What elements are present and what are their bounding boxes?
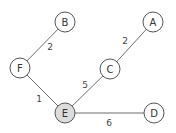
node-f-label: F — [17, 63, 23, 74]
node-c-label: C — [107, 64, 114, 75]
node-f: F — [10, 58, 30, 78]
edge-weight-a-c: 2 — [122, 36, 128, 46]
edge-labels: 2 2 5 1 6 — [36, 36, 128, 128]
node-c: C — [100, 59, 120, 79]
node-a-label: A — [150, 17, 157, 28]
edge-weight-f-e: 1 — [36, 94, 42, 104]
node-b-label: B — [62, 17, 69, 28]
node-d-label: D — [150, 108, 158, 119]
graph-diagram: 2 2 5 1 6 A B C D E F — [0, 0, 176, 133]
edge-weight-c-e: 5 — [82, 80, 88, 90]
node-e-highlighted: E — [55, 103, 75, 123]
edge-weight-b-f: 2 — [47, 42, 53, 52]
nodes: A B C D E F — [10, 12, 164, 123]
node-d: D — [144, 103, 164, 123]
node-e-label: E — [62, 108, 68, 119]
node-b: B — [55, 12, 75, 32]
edge-weight-e-d: 6 — [106, 118, 112, 128]
node-a: A — [143, 12, 163, 32]
